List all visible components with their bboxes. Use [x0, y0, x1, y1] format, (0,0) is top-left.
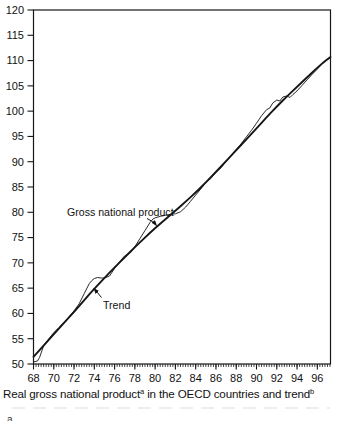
y-tick-label: 90: [12, 156, 24, 168]
x-tick-label: 90: [250, 372, 262, 384]
y-tick-label: 75: [12, 231, 24, 243]
y-tick-label: 95: [12, 130, 24, 142]
plot-frame: [34, 10, 331, 364]
axes: 6870727476788082848688909294965055606570…: [6, 4, 331, 384]
y-tick-label: 110: [6, 54, 24, 66]
x-tick-label: 78: [129, 372, 141, 384]
x-tick-label: 72: [68, 372, 80, 384]
y-tick-label: 120: [6, 4, 24, 16]
gnp-label: Gross national product: [67, 206, 174, 218]
x-tick-label: 68: [27, 372, 39, 384]
gnp-trend-line-chart: 6870727476788082848688909294965055606570…: [0, 0, 343, 384]
y-tick-label: 105: [6, 80, 24, 92]
footnote-marker: a: [7, 414, 13, 421]
y-tick-label: 70: [12, 257, 24, 269]
y-tick-label: 80: [12, 206, 24, 218]
x-tick-label: 70: [48, 372, 60, 384]
caption-text-2: in the OECD countries and trend: [144, 387, 310, 400]
x-tick-label: 94: [291, 372, 303, 384]
cutoff-footnote-fragment: a: [7, 414, 17, 421]
y-tick-label: 115: [6, 29, 24, 41]
trend-label-leader-arrow: [94, 289, 102, 298]
x-tick-label: 74: [88, 372, 100, 384]
x-tick-label: 84: [190, 372, 202, 384]
y-tick-label: 65: [12, 282, 24, 294]
x-tick-label: 86: [210, 372, 222, 384]
scan-artifact-row: [12, 407, 330, 409]
x-tick-label: 82: [169, 372, 181, 384]
figure: 6870727476788082848688909294965055606570…: [0, 0, 343, 422]
caption-footnote-marker-b: b: [310, 387, 314, 396]
y-tick-label: 60: [12, 307, 24, 319]
x-tick-label: 88: [230, 372, 242, 384]
figure-caption: Real gross national producta in the OECD…: [3, 387, 343, 400]
x-tick-label: 76: [108, 372, 120, 384]
y-tick-label: 85: [12, 181, 24, 193]
x-tick-label: 80: [149, 372, 161, 384]
caption-text-1: Real gross national product: [3, 387, 140, 400]
x-tick-label: 96: [311, 372, 323, 384]
y-tick-label: 50: [12, 358, 24, 370]
y-tick-label: 100: [6, 105, 24, 117]
trend-label: Trend: [103, 299, 130, 311]
y-tick-label: 55: [12, 333, 24, 345]
x-tick-label: 92: [271, 372, 283, 384]
